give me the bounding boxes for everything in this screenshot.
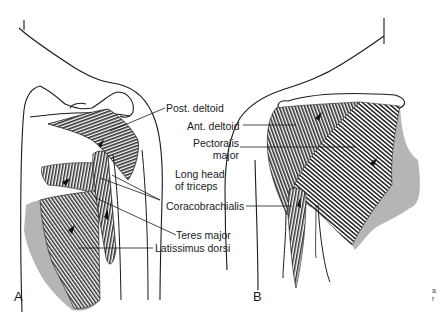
label-post-deltoid: Post. deltoid [166,102,224,114]
cropped-caption-fragment: a r [432,287,436,303]
label-teres-major: Teres major [176,229,231,241]
label-long-head-triceps-line1: Long head [175,168,225,180]
label-latissimus-dorsi: Latissimus dorsi [155,242,230,254]
label-pectoralis-major-line2: major [189,149,239,161]
panel-label-a: A [14,289,23,304]
label-ant-deltoid: Ant. deltoid [187,120,240,132]
label-pectoralis-major-line1: Pectoralis [189,137,239,149]
latissimus-dorsi-muscle [40,190,100,309]
teres-major-muscle [41,163,100,195]
label-long-head-triceps-line2: of triceps [175,180,218,192]
fragment-line-2: r [432,295,436,303]
coracobrachialis-muscle [288,188,306,288]
fragment-line-1: a [432,287,436,295]
panel-label-b: B [253,289,262,304]
label-coracobrachialis: Coracobrachialis [166,200,244,212]
